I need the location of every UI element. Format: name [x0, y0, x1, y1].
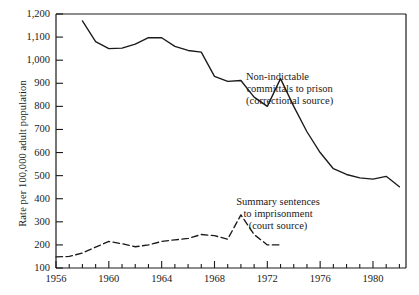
- plot-area: [0, 0, 419, 295]
- y-tick-label-500: 500: [6, 170, 50, 181]
- y-axis-ticks: [56, 14, 63, 268]
- y-tick-label-200: 200: [6, 239, 50, 250]
- y-tick-label-300: 300: [6, 216, 50, 227]
- x-axis-ticks: [56, 261, 399, 268]
- y-tick-label-800: 800: [6, 100, 50, 111]
- y-tick-label-400: 400: [6, 193, 50, 204]
- chart-figure: Rate per 100,000 adult population 100200…: [0, 0, 419, 295]
- x-tick-label-1976: 1976: [298, 273, 342, 284]
- annotation-summary-sentences-line-1: Summary sentences: [213, 196, 343, 208]
- y-tick-label-900: 900: [6, 77, 50, 88]
- annotation-non-indictable-line-1: Non-indictable: [246, 71, 333, 83]
- x-tick-label-1960: 1960: [87, 273, 131, 284]
- annotation-summary-sentences-line-2: to imprisonment: [213, 208, 343, 220]
- y-tick-label-1100: 1,100: [6, 31, 50, 42]
- x-tick-label-1964: 1964: [140, 273, 184, 284]
- annotation-non-indictable: Non-indictable committals to prison (cor…: [246, 71, 333, 108]
- y-tick-label-1200: 1,200: [6, 8, 50, 19]
- annotation-non-indictable-line-2: committals to prison: [246, 83, 333, 95]
- y-tick-label-1000: 1,000: [6, 54, 50, 65]
- series-line-non-indictable: [82, 21, 399, 187]
- x-tick-label-1972: 1972: [245, 273, 289, 284]
- annotation-summary-sentences: Summary sentences to imprisonment (court…: [213, 196, 343, 233]
- annotation-summary-sentences-line-3: (court source): [213, 220, 343, 232]
- x-tick-label-1980: 1980: [351, 273, 395, 284]
- x-tick-label-1956: 1956: [34, 273, 78, 284]
- y-tick-label-100: 100: [6, 262, 50, 273]
- y-tick-label-600: 600: [6, 147, 50, 158]
- x-tick-label-1968: 1968: [192, 273, 236, 284]
- y-tick-label-700: 700: [6, 123, 50, 134]
- annotation-non-indictable-line-3: (correctional source): [246, 95, 333, 107]
